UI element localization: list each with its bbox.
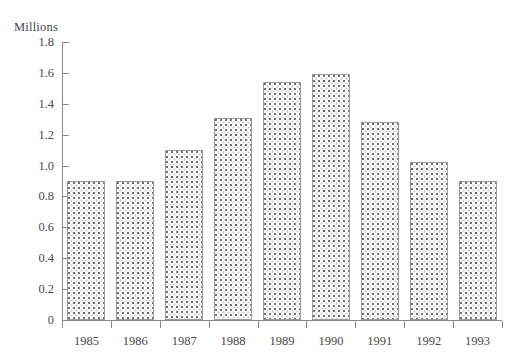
x-tick-mark <box>258 321 259 328</box>
bar <box>165 150 203 320</box>
x-tick-label: 1986 <box>123 334 148 349</box>
x-tick-mark <box>209 321 210 328</box>
bar <box>361 122 399 320</box>
y-tick-label: 1.2 <box>8 127 54 142</box>
y-tick-label: 0.8 <box>8 189 54 204</box>
x-tick-mark <box>160 321 161 328</box>
y-tick-label: 0.6 <box>8 220 54 235</box>
x-tick-label: 1990 <box>318 334 343 349</box>
bar <box>67 181 105 320</box>
bar <box>214 118 252 320</box>
bar-chart: Millions 00.20.40.60.81.01.21.41.61.8 19… <box>0 0 511 364</box>
y-tick-label: 0.4 <box>8 251 54 266</box>
x-tick-label: 1987 <box>172 334 197 349</box>
x-tick-mark <box>62 321 63 328</box>
x-tick-mark <box>306 321 307 328</box>
y-tick-label: 0.2 <box>8 282 54 297</box>
y-tick-label: 1.8 <box>8 35 54 50</box>
y-tick-label: 1.6 <box>8 65 54 80</box>
y-tick-label: 1.0 <box>8 158 54 173</box>
bar <box>116 181 154 320</box>
bar <box>410 162 448 320</box>
x-tick-mark <box>453 321 454 328</box>
y-axis-unit-caption: Millions <box>14 20 58 35</box>
x-tick-mark <box>404 321 405 328</box>
bar <box>312 74 350 320</box>
x-tick-label: 1985 <box>74 334 99 349</box>
y-tick-label: 0 <box>8 313 54 328</box>
y-tick-mark <box>62 320 69 321</box>
plot-area <box>62 42 502 320</box>
bar <box>263 82 301 320</box>
x-tick-label: 1993 <box>465 334 490 349</box>
bar <box>459 181 497 320</box>
x-axis-line <box>62 320 502 321</box>
x-tick-label: 1988 <box>221 334 246 349</box>
x-tick-label: 1991 <box>367 334 392 349</box>
x-tick-mark <box>355 321 356 328</box>
x-tick-mark <box>111 321 112 328</box>
x-tick-mark <box>502 321 503 328</box>
x-tick-label: 1989 <box>270 334 295 349</box>
y-tick-label: 1.4 <box>8 96 54 111</box>
x-tick-label: 1992 <box>416 334 441 349</box>
